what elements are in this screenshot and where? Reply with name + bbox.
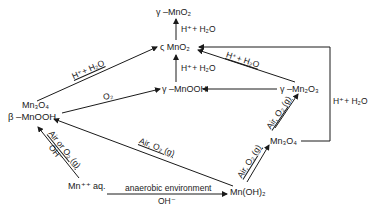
- node-sigma-mno2: ς MnO₂: [160, 43, 190, 52]
- node-mn3o4-right: Mn₃O₄: [270, 137, 297, 146]
- cond-oh-bottom: OH⁻: [158, 197, 176, 206]
- cond-o2: O₂: [102, 91, 113, 101]
- node-mn-aq: Mn⁺⁺ aq.: [68, 182, 106, 191]
- node-mn3o4-left: Mn₃O₄: [22, 101, 49, 110]
- arrow-mn-oh2-to-beta: [54, 119, 233, 186]
- node-gamma-mnooh: γ –MnOOH: [162, 85, 207, 94]
- cond-anaerobic: anaerobic environment: [125, 184, 211, 193]
- node-gamma-mno2: γ –MnO₂: [156, 8, 191, 17]
- node-mn-oh2: Mn(OH)₂: [230, 188, 266, 197]
- arrow-mn3o4-right-to-sigma: [199, 47, 330, 141]
- node-gamma-mn2o3: γ –Mn₂O₃: [280, 85, 319, 94]
- cond-h-h2o-middle: H⁺+ H₂O: [181, 64, 216, 73]
- node-beta-mnooh: β –MnOOH: [8, 112, 56, 122]
- cond-h-h2o-box: H⁺+ H₂O: [333, 97, 368, 106]
- cond-h-h2o-top: H⁺+ H₂O: [181, 25, 216, 34]
- arrow-mn3o4-left-to-sigma: [37, 47, 157, 101]
